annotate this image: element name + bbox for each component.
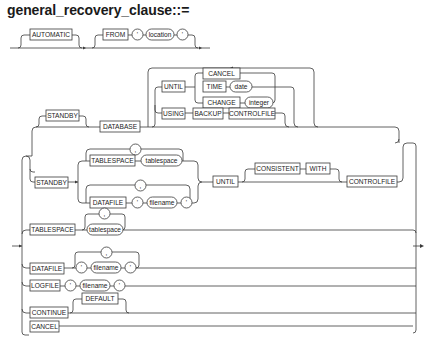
quote-close: ' (182, 31, 183, 38)
keyword-until-db: UNTIL (164, 83, 183, 90)
var-date: date (235, 83, 248, 90)
keyword-standby-db: STANDBY (47, 112, 78, 119)
comma-tablespace: , (104, 210, 106, 217)
keyword-cancel-db: CANCEL (208, 70, 235, 77)
var-tablespace: tablespace (89, 226, 121, 234)
var-tablespace-standby: tablespace (146, 157, 178, 165)
keyword-datafile: DATAFILE (32, 265, 63, 272)
var-filename-standby: filename (150, 199, 175, 206)
main-spine (12, 143, 424, 335)
logfile-branch: LOGFILE ' filename ' (22, 280, 416, 291)
top-row: AUTOMATIC FROM ' location ' (10, 29, 210, 50)
quote-close-datafile: ' (130, 264, 131, 271)
continue-branch: CONTINUE DEFAULT (22, 293, 416, 318)
railroad-diagram: AUTOMATIC FROM ' location ' ST (0, 0, 430, 348)
keyword-controlfile-db: CONTROLFILE (229, 110, 276, 117)
keyword-using: USING (163, 110, 184, 117)
keyword-tablespace: TABLESPACE (31, 226, 74, 233)
var-location: location (149, 31, 172, 38)
datafile-branch: DATAFILE , ' filename ' (22, 247, 416, 274)
keyword-until-standby: UNTIL (216, 178, 235, 185)
var-filename-datafile: filename (94, 264, 119, 271)
comma-datafile-standby: , (140, 182, 142, 189)
keyword-standby: STANDBY (36, 179, 67, 186)
keyword-logfile: LOGFILE (31, 282, 59, 289)
standby-branch: STANDBY , TABLESPACE tablespace , DATAFI… (26, 139, 413, 208)
keyword-time: TIME (207, 83, 223, 90)
quote-open: ' (137, 31, 138, 38)
tablespace-branch: TABLESPACE , tablespace (22, 208, 416, 235)
keyword-change: CHANGE (207, 99, 236, 106)
keyword-continue: CONTINUE (32, 309, 67, 316)
keyword-tablespace-standby: TABLESPACE (91, 157, 134, 164)
keyword-with: WITH (310, 165, 327, 172)
cancel-branch: CANCEL (30, 321, 413, 332)
keyword-backup: BACKUP (194, 110, 222, 117)
keyword-controlfile-standby: CONTROLFILE (349, 178, 396, 185)
quote-open-logfile: ' (70, 282, 71, 289)
keyword-database: DATABASE (103, 123, 138, 130)
keyword-datafile-standby: DATAFILE (93, 199, 124, 206)
keyword-from: FROM (106, 31, 125, 38)
quote-close-standby: ' (186, 199, 187, 206)
quote-open-datafile: ' (81, 264, 82, 271)
keyword-consistent: CONSISTENT (256, 165, 299, 172)
database-branch: STANDBY DATABASE UNTIL CANCEL TIME date … (32, 67, 399, 157)
keyword-default: DEFAULT (85, 295, 114, 302)
keyword-automatic: AUTOMATIC (32, 31, 70, 38)
quote-close-logfile: ' (119, 282, 120, 289)
keyword-cancel: CANCEL (31, 323, 58, 330)
comma-tablespace-standby: , (135, 146, 137, 153)
quote-open-standby: ' (137, 199, 138, 206)
var-filename-logfile: filename (83, 282, 108, 289)
var-integer: integer (249, 99, 270, 107)
comma-datafile: , (106, 249, 108, 256)
